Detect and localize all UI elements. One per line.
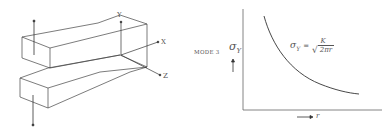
plot-axes: [243, 9, 382, 110]
upper-block-bottom-edge: [50, 55, 147, 68]
axis-label-x: X: [161, 38, 166, 46]
axis-label-z: Z: [163, 72, 168, 80]
lower-block-bottom-edge: [48, 67, 147, 108]
arrow-head-up: [33, 20, 35, 22]
mode-label: MODE 3: [194, 49, 220, 55]
formula-lhs: σY: [290, 40, 300, 52]
lower-block-top-left: [20, 55, 120, 78]
y-axis-label-sigma: σ: [229, 40, 237, 53]
upper-block-front-face: [22, 37, 50, 68]
formula-fraction: K √2πr: [312, 37, 334, 55]
cracked-body-sketch: [20, 15, 147, 108]
y-axis-label-sub: Y: [237, 47, 242, 55]
x-axis-label: r: [316, 112, 319, 120]
formula-denominator-wrap: √2πr: [312, 45, 334, 55]
arrow-head-down: [32, 124, 34, 126]
formula-equals: =: [303, 42, 309, 50]
upper-block-top: [22, 15, 147, 48]
lower-block-front-face: [20, 78, 48, 108]
stress-curve: [264, 16, 359, 94]
formula-numerator: K: [320, 37, 325, 45]
diagram-canvas: [0, 0, 386, 131]
formula-sub: Y: [296, 45, 300, 52]
plot-arrows: [232, 59, 314, 119]
axis-label-y: Y: [117, 11, 122, 19]
formula-denominator: 2πr: [318, 45, 334, 55]
x-axis-line: [121, 42, 158, 55]
y-axis-label: σY: [229, 40, 241, 55]
lower-block-top: [48, 67, 147, 88]
stress-formula: σY = K √2πr: [290, 37, 334, 55]
z-axis-line: [121, 55, 160, 75]
